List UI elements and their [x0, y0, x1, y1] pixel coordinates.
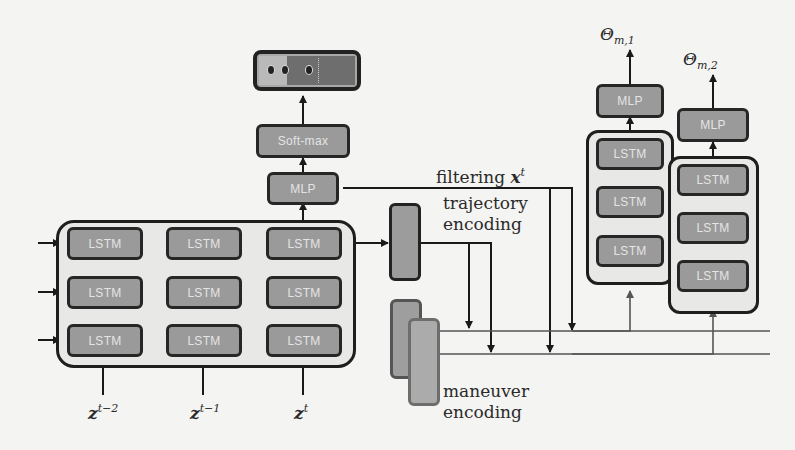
trajectory-encoding-vector	[389, 203, 421, 281]
probability-marker-icon	[305, 65, 313, 75]
encoder-lstm-r3-c2: LSTM	[166, 324, 242, 357]
maneuver-encoding-vector-2	[408, 318, 440, 406]
decoder-1-lstm-2: LSTM	[596, 186, 664, 218]
probability-bar-right	[287, 56, 355, 85]
filtering-label: filtering xt	[436, 162, 525, 188]
input-label-t: zt	[294, 398, 308, 424]
encoder-lstm-r2-c3: LSTM	[266, 276, 342, 309]
decoder-2-output-label: Θm,2	[683, 49, 718, 76]
encoder-lstm-r1-c1: LSTM	[67, 227, 143, 260]
encoder-lstm-r3-c1: LSTM	[67, 324, 143, 357]
probability-divider	[318, 58, 319, 83]
encoder-lstm-r3-c3: LSTM	[266, 324, 342, 357]
probability-marker-icon	[267, 65, 275, 75]
softmax-layer: Soft-max	[256, 124, 350, 158]
probability-marker-icon	[281, 65, 289, 75]
input-label-t-minus-2: zt−2	[88, 398, 118, 424]
encoder-lstm-r1-c3: LSTM	[266, 227, 342, 260]
classifier-mlp: MLP	[267, 172, 339, 205]
decoder-2-mlp: MLP	[677, 108, 749, 142]
decoder-1-mlp: MLP	[596, 84, 664, 118]
decoder-1-lstm-3: LSTM	[596, 235, 664, 267]
decoder-1-output-label: Θm,1	[600, 24, 635, 51]
decoder-1-lstm-1: LSTM	[596, 138, 664, 170]
maneuver-encoding-label: maneuver encoding	[443, 381, 529, 423]
encoder-lstm-r2-c2: LSTM	[166, 276, 242, 309]
decoder-2-lstm-1: LSTM	[677, 164, 749, 196]
decoder-2-lstm-2: LSTM	[677, 212, 749, 244]
encoder-lstm-r1-c2: LSTM	[166, 227, 242, 260]
decoder-2-lstm-3: LSTM	[677, 260, 749, 292]
maneuver-probability-output	[253, 50, 361, 91]
trajectory-encoding-label: trajectory encoding	[443, 193, 528, 235]
input-label-t-minus-1: zt−1	[190, 398, 220, 424]
encoder-lstm-r2-c1: LSTM	[67, 276, 143, 309]
